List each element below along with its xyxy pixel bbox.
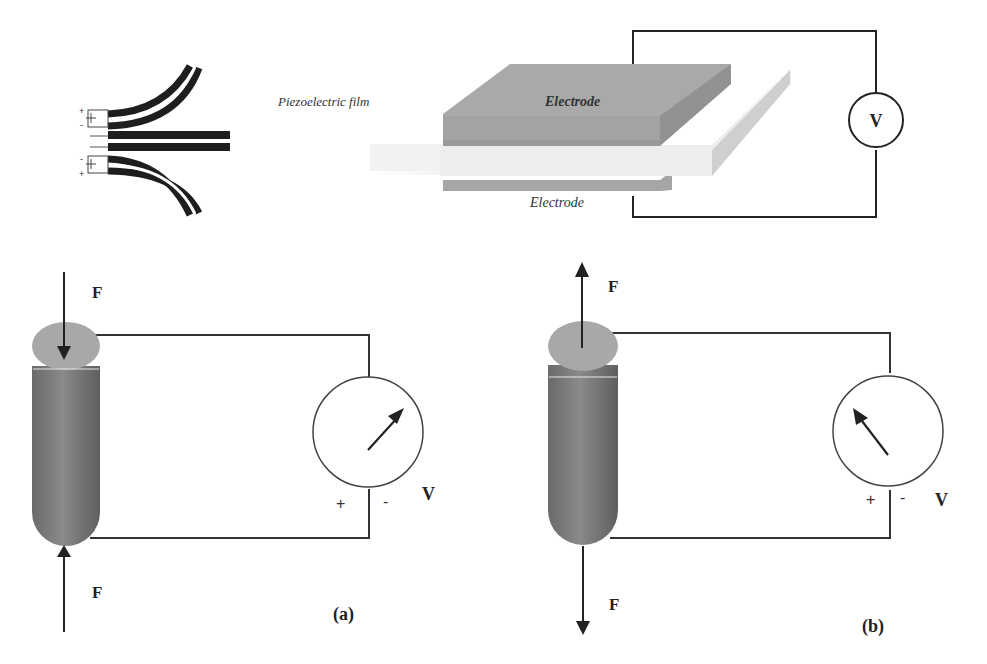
panel-b-plus: + (866, 491, 875, 508)
panel-b-piezo-cylinder (548, 321, 618, 545)
panel-a-force-bottom-label: F (92, 583, 102, 602)
panel-b-meter-label: V (935, 490, 948, 510)
panel-a-wire-top (90, 335, 369, 378)
panel-a: F F + - V (a) (32, 272, 435, 632)
panel-b-wire-bottom (610, 490, 890, 538)
panel-b-force-bottom-label: F (609, 595, 619, 614)
panel-a-wire-bottom (90, 489, 369, 538)
film-meter-label: V (870, 111, 883, 131)
panel-b: F F + - V (b) (548, 262, 948, 637)
panel-b-minus: - (900, 489, 905, 506)
piezo-film-illustration: Piezoelectric film Electrode Electrode V (277, 31, 903, 217)
bottom-electrode-label: Electrode (529, 195, 584, 210)
panel-b-voltmeter (833, 376, 943, 486)
panel-a-voltmeter (313, 377, 423, 487)
bimorph-illustration: + - - + (79, 66, 230, 215)
bimorph-strip-straight (90, 131, 230, 151)
film-label: Piezoelectric film (277, 94, 369, 109)
panel-b-wire-top (612, 333, 890, 373)
bimorph-top-minus: - (80, 120, 83, 130)
piezoelectric-diagram: + - - + (0, 0, 987, 664)
panel-b-force-top-arrowhead (575, 262, 589, 277)
bimorph-bottom-minus: - (80, 154, 83, 164)
bimorph-strip-bent-down (86, 156, 199, 215)
film-voltmeter: V (849, 93, 903, 147)
panel-a-meter-label: V (422, 484, 435, 504)
panel-a-force-top-label: F (92, 283, 102, 302)
panel-b-force-top-label: F (608, 277, 618, 296)
bimorph-bottom-plus: + (79, 169, 84, 179)
panel-b-caption: (b) (862, 616, 884, 637)
panel-a-plus: + (336, 495, 345, 512)
top-electrode-label: Electrode (544, 94, 600, 109)
panel-a-minus: - (383, 493, 388, 510)
bimorph-strip-bent-up (86, 66, 199, 127)
panel-b-force-bottom-arrowhead (576, 621, 590, 635)
panel-a-force-bottom-arrowhead (57, 545, 71, 557)
panel-a-caption: (a) (333, 604, 354, 625)
bimorph-top-plus: + (79, 106, 84, 116)
